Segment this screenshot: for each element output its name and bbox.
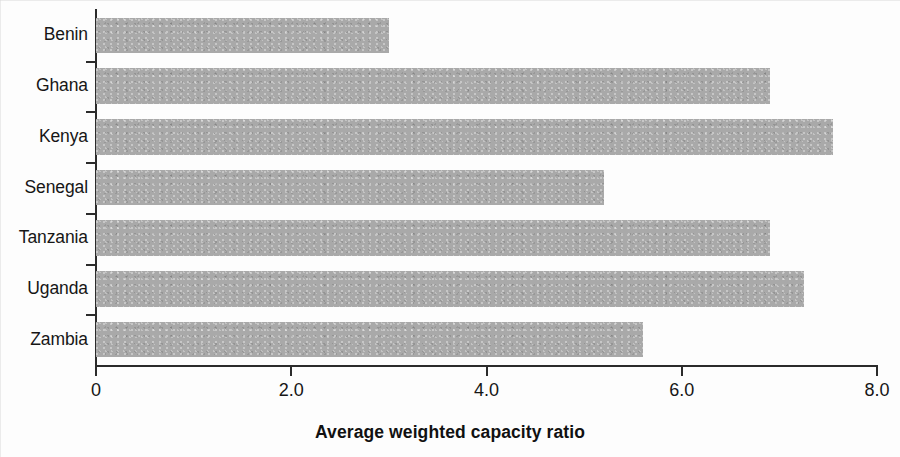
bar-ghana — [96, 68, 770, 104]
x-axis-tick — [876, 366, 878, 376]
scan-artifact-top — [0, 0, 900, 1]
bar-row — [96, 18, 877, 54]
bar-row — [96, 68, 877, 104]
x-axis-tick-label: 2.0 — [279, 380, 304, 401]
bar-senegal — [96, 170, 604, 206]
y-axis-tick — [86, 162, 96, 164]
bar-uganda — [96, 271, 804, 307]
x-axis-tick-label: 8.0 — [864, 380, 889, 401]
category-label-zambia: Zambia — [2, 329, 88, 350]
y-axis-tick — [86, 264, 96, 266]
category-label-senegal: Senegal — [2, 177, 88, 198]
category-axis-labels: BeninGhanaKenyaSenegalTanzaniaUgandaZamb… — [0, 10, 88, 365]
x-axis-tick — [290, 366, 292, 376]
category-label-ghana: Ghana — [2, 75, 88, 96]
bar-benin — [96, 18, 389, 54]
bar-chart-figure: BeninGhanaKenyaSenegalTanzaniaUgandaZamb… — [0, 0, 900, 457]
bar-row — [96, 119, 877, 155]
bar-kenya — [96, 119, 833, 155]
y-axis-tick — [86, 314, 96, 316]
y-axis-tick — [86, 61, 96, 63]
x-axis-tick-label: 4.0 — [474, 380, 499, 401]
bar-row — [96, 271, 877, 307]
plot-area — [96, 10, 877, 365]
bar-row — [96, 170, 877, 206]
x-axis-tick-label: 0 — [91, 380, 101, 401]
y-axis-tick — [86, 213, 96, 215]
x-axis-tick — [681, 366, 683, 376]
bar-row — [96, 220, 877, 256]
category-label-tanzania: Tanzania — [2, 227, 88, 248]
bar-zambia — [96, 322, 643, 358]
category-label-uganda: Uganda — [2, 278, 88, 299]
x-axis-tick — [486, 366, 488, 376]
bar-row — [96, 322, 877, 358]
x-axis-title: Average weighted capacity ratio — [0, 422, 900, 443]
category-label-benin: Benin — [2, 24, 88, 45]
x-axis-tick — [95, 366, 97, 376]
category-label-kenya: Kenya — [2, 126, 88, 147]
bar-tanzania — [96, 220, 770, 256]
y-axis-tick — [86, 111, 96, 113]
x-axis-tick-label: 6.0 — [669, 380, 694, 401]
